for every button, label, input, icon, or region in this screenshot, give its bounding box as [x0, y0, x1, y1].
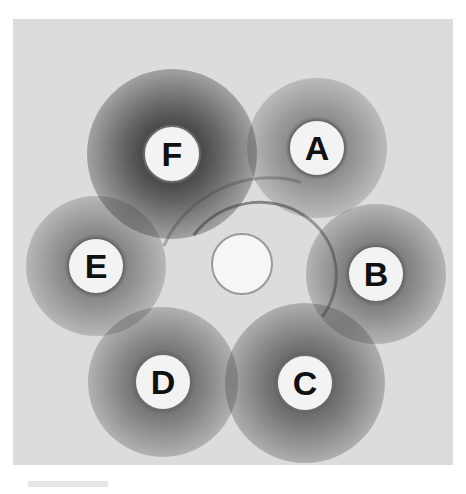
well-a: A [288, 119, 346, 177]
caption-fragment [28, 481, 108, 487]
well-d: D [134, 353, 192, 411]
well-c: C [276, 354, 334, 412]
well-label: A [305, 131, 330, 165]
well-b: B [347, 245, 405, 303]
well-label: E [85, 249, 108, 283]
center-well [211, 233, 273, 295]
well-label: C [293, 366, 318, 400]
well-f: F [143, 125, 201, 183]
well-label: D [151, 365, 176, 399]
well-label: B [364, 257, 389, 291]
agar-plate: FAEBDC [13, 19, 453, 465]
well-e: E [67, 237, 125, 295]
well-label: F [162, 137, 183, 171]
